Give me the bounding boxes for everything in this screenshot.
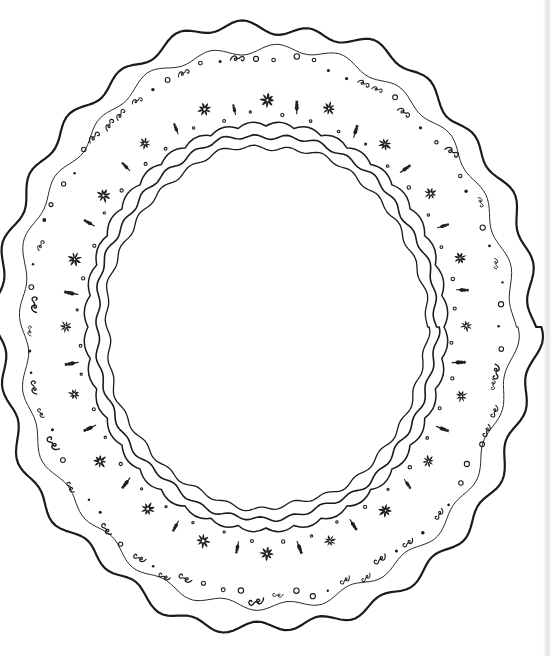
rim-dot-icon: [464, 190, 467, 193]
rim-dot-icon: [395, 550, 398, 553]
daisy-centre: [327, 107, 331, 111]
rim-dot-icon: [51, 428, 54, 431]
rim-dot-icon: [152, 565, 155, 568]
daisy-centre: [465, 324, 469, 328]
daisy-centre: [202, 107, 207, 112]
plate-illustration: [0, 0, 551, 656]
daisy-centre: [266, 98, 270, 102]
rim-dot-icon: [32, 263, 34, 265]
rim-dot-icon: [30, 372, 33, 375]
daisy-centre: [459, 394, 463, 398]
rim-dot-icon: [327, 69, 330, 72]
rim-dot-icon: [88, 499, 90, 501]
rim-dot-icon: [497, 325, 500, 328]
rim-dot-icon: [419, 126, 422, 129]
rim-dot-icon: [99, 511, 102, 514]
rim-dot-icon: [447, 504, 450, 507]
daisy-centre: [201, 539, 206, 544]
daisy-centre: [383, 142, 386, 145]
drawing-canvas: Decorative Plate Line Drawing Circular d…: [0, 0, 551, 656]
rim-dot-icon: [501, 281, 503, 283]
rim-dot-icon: [42, 218, 46, 222]
daisy-centre: [384, 509, 388, 513]
daisy-centre: [328, 539, 331, 542]
rim-dot-icon: [151, 88, 154, 91]
rim-dot-icon: [345, 77, 348, 80]
daisy-centre: [458, 256, 462, 260]
plate-well: [108, 148, 424, 506]
rim-dot-icon: [421, 531, 425, 535]
rim-dot-icon: [488, 245, 491, 248]
rim-dot-icon: [28, 349, 31, 352]
rim-dot-icon: [219, 60, 222, 63]
rim-dot-icon: [327, 590, 329, 592]
rim-dot-icon: [73, 172, 75, 174]
daisy-centre: [73, 257, 77, 261]
daisy-centre: [265, 552, 269, 556]
daisy-centre: [64, 325, 67, 328]
